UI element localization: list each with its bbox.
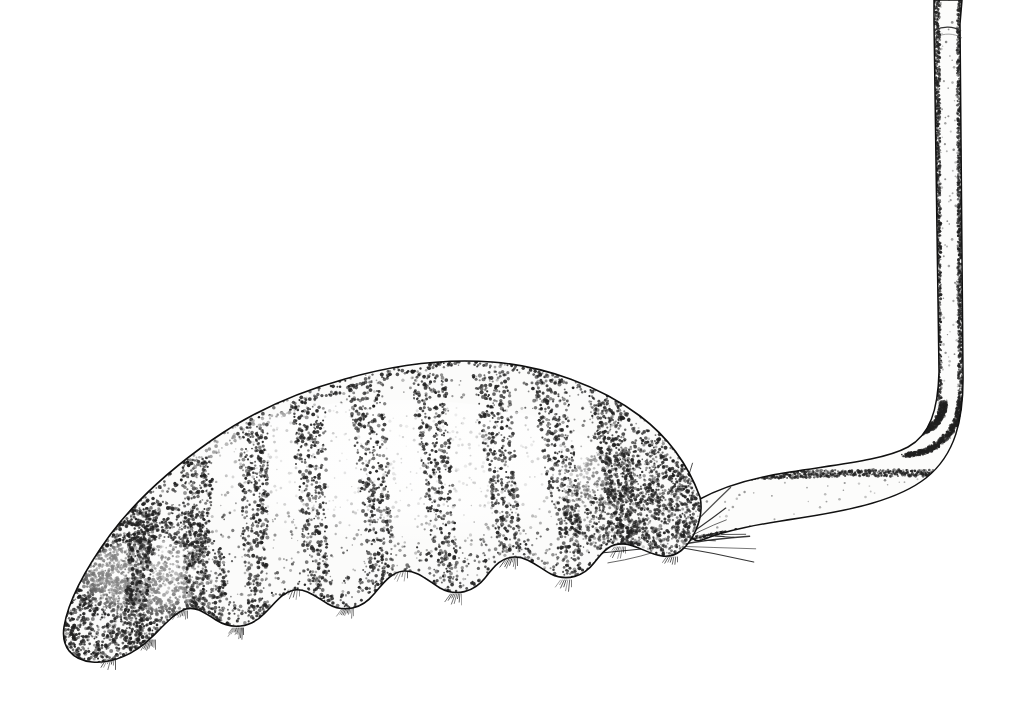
illustration-canvas: Plump curved grub-like body, crescent sh… xyxy=(0,0,1020,717)
larva-illustration-svg xyxy=(0,0,1020,717)
